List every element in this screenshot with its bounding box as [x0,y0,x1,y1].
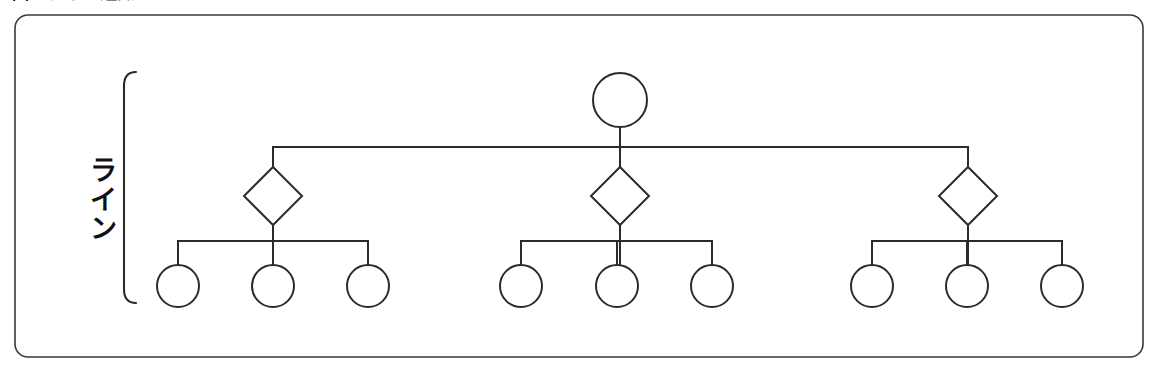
node-leaf[interactable] [596,265,638,307]
node-leaf[interactable] [347,265,389,307]
node-root[interactable] [593,73,647,127]
group-label: ラ イ ン [90,156,117,244]
node-leaf[interactable] [500,265,542,307]
organization-chart-svg: ラ イ ン [0,0,1158,377]
svg-text:ン: ン [90,214,117,244]
figure-container: 図1 ライン組織 ラ イ ン [0,0,1158,377]
svg-text:イ: イ [90,185,117,215]
node-leaf[interactable] [252,265,294,307]
node-leaf[interactable] [691,265,733,307]
svg-text:ラ: ラ [90,156,117,186]
node-leaf[interactable] [946,265,988,307]
node-leaf[interactable] [1041,265,1083,307]
node-leaf[interactable] [851,265,893,307]
node-leaf[interactable] [157,265,199,307]
